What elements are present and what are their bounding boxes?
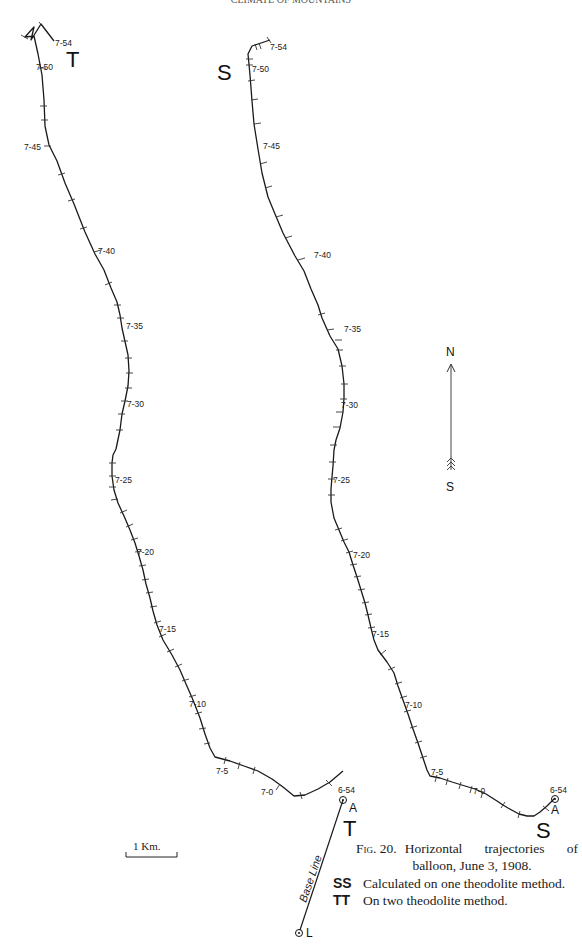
time-label: 7-50 — [36, 62, 53, 72]
scale-label: 1 Km. — [133, 840, 161, 852]
station-l-label: L — [306, 926, 313, 940]
trajectory-s: 7-54 7-50 7-45 7-40 7-35 7-30 7-25 7-20 … — [217, 37, 567, 843]
time-label: 7-50 — [252, 64, 269, 74]
compass-north-label: N — [446, 345, 455, 359]
base-line-label: Base Line — [297, 853, 324, 903]
time-label: 7-40 — [314, 250, 331, 260]
base-line: L Base Line — [296, 800, 344, 940]
trajectory-t-label: T — [66, 47, 79, 72]
time-label: 6-54 — [338, 785, 355, 795]
time-label: 7-15 — [372, 629, 389, 639]
trajectory-t: 7-54 7-50 7-45 7-40 7-35 7-30 7-25 7-20 … — [21, 22, 357, 841]
time-label: 7-40 — [98, 246, 115, 256]
time-label: 7-15 — [159, 624, 176, 634]
trajectory-s-label: S — [217, 60, 232, 85]
time-label: 7-20 — [353, 550, 370, 560]
time-label: 7-45 — [24, 142, 41, 152]
time-label: 7-54 — [270, 42, 287, 52]
trajectory-t-label-bottom: T — [343, 816, 356, 841]
time-label: 6-54 — [550, 785, 567, 795]
scale-bar — [126, 852, 177, 857]
trajectory-t-ticks — [21, 22, 332, 799]
figure-legend: SSCalculated on one theodolite method. T… — [333, 875, 582, 909]
trajectory-s-path — [248, 40, 555, 816]
time-label: 7-5 — [216, 766, 229, 776]
time-label: 7-45 — [263, 141, 280, 151]
legend-item-tt: TTOn two theodolite method. — [333, 892, 582, 909]
caption-line-2: balloon, June 3, 1908. — [356, 857, 578, 874]
time-label: 7-0 — [261, 787, 274, 797]
time-label: 7-35 — [126, 321, 143, 331]
time-label: 7-25 — [333, 475, 350, 485]
compass: N S — [446, 345, 455, 494]
station-a-label: A — [349, 801, 357, 815]
station-a-label: A — [551, 803, 559, 817]
time-label: 7-30 — [341, 400, 358, 410]
trajectory-diagram: 7-54 7-50 7-45 7-40 7-35 7-30 7-25 7-20 … — [0, 0, 582, 948]
time-label: 7-30 — [127, 399, 144, 409]
trajectory-s-ticks — [246, 37, 549, 818]
caption-line-1: Horizontal trajectories of — [405, 840, 578, 857]
time-label: 7-5 — [431, 767, 444, 777]
time-label: 7-35 — [344, 324, 361, 334]
figure-caption: Fig. 20. Horizontal trajectories of ball… — [356, 840, 578, 874]
legend-item-ss: SSCalculated on one theodolite method. — [333, 875, 582, 892]
time-label: 7-20 — [137, 547, 154, 557]
compass-south-label: S — [446, 480, 454, 494]
time-label: 7-25 — [115, 475, 132, 485]
time-label: 7-0 — [473, 786, 486, 796]
time-label: 7-10 — [405, 700, 422, 710]
time-label: 7-10 — [189, 699, 206, 709]
figure-number: Fig. 20. — [356, 840, 397, 857]
